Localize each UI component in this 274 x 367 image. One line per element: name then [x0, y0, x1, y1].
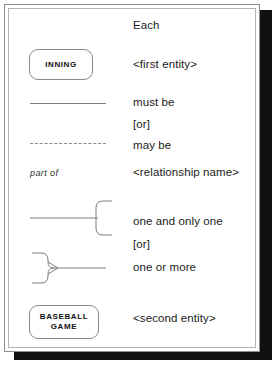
entity-box-baseball-game[interactable]: BASEBALLGAME [29, 305, 99, 339]
row-label-each: Each [133, 19, 160, 31]
entity-box-inning-label: INNING [45, 60, 77, 70]
row-label-one-or-more: one or more [133, 261, 196, 273]
row-label-one-and-only-one: one and only one [133, 215, 223, 227]
symbol-solid-line [30, 103, 106, 104]
symbol-dashed-line [30, 143, 106, 144]
entity-box-baseball-game-line1: BASEBALL [40, 312, 88, 321]
entity-box-baseball-game-line2: GAME [51, 322, 77, 331]
entity-box-baseball-game-label: BASEBALLGAME [40, 312, 88, 332]
row-label-may-be: may be [133, 139, 171, 151]
row-label-must-be: must be [133, 96, 175, 108]
entity-box-inning[interactable]: INNING [29, 49, 93, 80]
row-label-relationship: <relationship name> [133, 166, 239, 178]
row-label-second-entity: <second entity> [133, 312, 216, 324]
row-label-first-entity: <first entity> [133, 58, 197, 70]
relationship-name-sample: part of [30, 168, 58, 178]
row-label-or-2: [or] [133, 238, 150, 250]
row-label-or-1: [or] [133, 118, 150, 130]
er-notation-legend: Each <first entity> must be [or] may be … [0, 0, 274, 367]
